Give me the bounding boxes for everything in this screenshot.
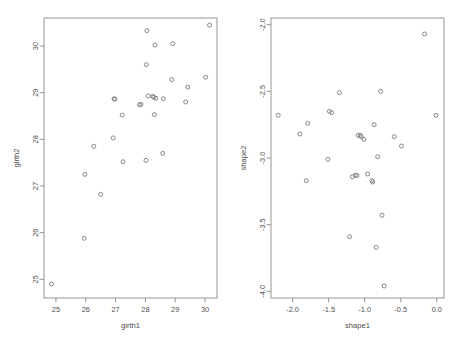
data-point <box>423 32 427 36</box>
data-point <box>144 158 148 162</box>
data-point <box>146 94 150 98</box>
x-tick-label: 30 <box>201 305 209 314</box>
data-point <box>337 91 341 95</box>
data-point <box>348 235 352 239</box>
data-point <box>304 179 308 183</box>
data-point <box>83 172 87 176</box>
data-point <box>376 155 380 159</box>
data-point <box>184 100 188 104</box>
data-point <box>99 192 103 196</box>
data-point <box>372 123 376 127</box>
panel-girth: 252627282930252627282930girth1girth2 <box>0 0 226 347</box>
data-point <box>92 144 96 148</box>
data-point <box>208 23 212 27</box>
scatter-plot-figure: 252627282930252627282930girth1girth2 -2.… <box>0 0 453 347</box>
y-tick-label: 29 <box>31 89 40 97</box>
y-tick-label: -3.0 <box>258 152 267 165</box>
data-point <box>144 63 148 67</box>
data-point <box>153 43 157 47</box>
data-point <box>121 160 125 164</box>
data-point <box>145 29 149 33</box>
plot-frame <box>44 18 217 298</box>
y-tick-label: 25 <box>31 275 40 283</box>
y-tick-label: 26 <box>31 229 40 237</box>
y-tick-label: -2.5 <box>258 85 267 98</box>
data-point <box>370 179 374 183</box>
data-point <box>399 144 403 148</box>
data-point <box>120 113 124 117</box>
plot-frame <box>271 18 444 298</box>
data-point <box>326 157 330 161</box>
data-point <box>434 113 438 117</box>
x-tick-label: -1.0 <box>358 305 371 314</box>
y-tick-label: 30 <box>31 42 40 50</box>
x-tick-label: -2.0 <box>286 305 299 314</box>
data-point <box>204 75 208 79</box>
girth-scatter-svg: 252627282930252627282930girth1girth2 <box>0 0 226 347</box>
x-tick-label: 29 <box>171 305 179 314</box>
x-tick-label: -1.5 <box>322 305 335 314</box>
data-point <box>392 135 396 139</box>
data-point <box>152 113 156 117</box>
y-tick-label: -2.0 <box>258 18 267 31</box>
data-point <box>170 78 174 82</box>
x-tick-label: 26 <box>82 305 90 314</box>
x-tick-label: 0.0 <box>432 305 442 314</box>
data-point <box>379 89 383 93</box>
y-axis-title: girth2 <box>12 149 21 168</box>
x-tick-label: 28 <box>141 305 149 314</box>
data-point <box>49 282 53 286</box>
data-point <box>380 213 384 217</box>
shape-scatter-svg: -2.0-1.5-1.0-0.50.0-4.0-3.5-3.0-2.5-2.0s… <box>227 0 453 347</box>
data-point <box>186 85 190 89</box>
data-point <box>382 284 386 288</box>
y-tick-label: -3.5 <box>258 218 267 231</box>
x-tick-label: 27 <box>111 305 119 314</box>
y-tick-label: 27 <box>31 182 40 190</box>
x-axis-title: shape1 <box>345 321 370 330</box>
x-tick-label: -0.5 <box>394 305 407 314</box>
data-point <box>366 172 370 176</box>
data-point <box>298 132 302 136</box>
x-axis-title: girth1 <box>121 321 140 330</box>
data-point <box>111 136 115 140</box>
panel-shape: -2.0-1.5-1.0-0.50.0-4.0-3.5-3.0-2.5-2.0s… <box>227 0 453 347</box>
data-point <box>161 97 165 101</box>
y-tick-label: 28 <box>31 135 40 143</box>
data-point <box>161 151 165 155</box>
data-point <box>82 236 86 240</box>
data-point <box>171 42 175 46</box>
x-tick-label: 25 <box>52 305 60 314</box>
data-point <box>276 113 280 117</box>
y-tick-label: -4.0 <box>258 285 267 298</box>
data-point <box>306 121 310 125</box>
y-axis-title: shape2 <box>239 146 248 171</box>
data-point <box>374 245 378 249</box>
